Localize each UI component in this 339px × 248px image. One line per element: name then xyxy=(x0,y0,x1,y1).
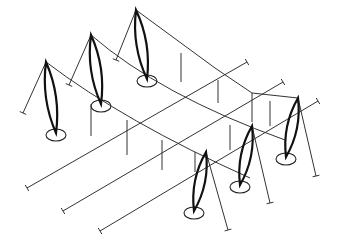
back-3-stay xyxy=(116,10,136,60)
edge-cables xyxy=(46,10,298,178)
front-2-stay xyxy=(252,126,270,203)
front-1-stay xyxy=(298,98,316,176)
anchor-tick xyxy=(281,79,285,85)
anchor-tick xyxy=(245,59,248,65)
back-ridge-3-cable xyxy=(136,10,298,98)
anchor-tick xyxy=(316,98,320,104)
back-1-mast xyxy=(45,62,57,133)
anchor-tick xyxy=(61,208,65,214)
hanger-lines xyxy=(91,53,270,172)
tensile-structure-diagram xyxy=(0,0,339,248)
back-3-mast xyxy=(135,10,148,79)
front-1-mast xyxy=(285,98,298,157)
anchor-tick xyxy=(98,228,102,234)
anchor-tick xyxy=(25,185,28,191)
tie-3-cable xyxy=(100,101,318,231)
back-2-stay xyxy=(69,35,91,85)
front-3-stay xyxy=(206,152,228,230)
back-1-stay xyxy=(23,62,46,113)
mast-stays xyxy=(20,10,320,231)
